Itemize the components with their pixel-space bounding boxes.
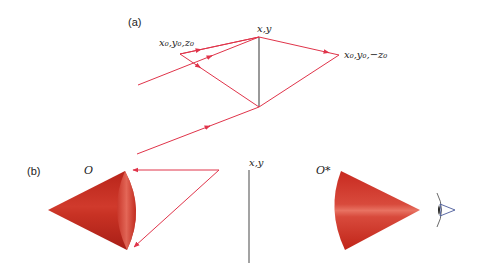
image-label: O* (316, 164, 331, 177)
object-label: O (84, 164, 93, 177)
image-cone (334, 171, 420, 250)
diagram-canvas (0, 0, 479, 276)
panel-b-label: (b) (27, 165, 40, 177)
panel-a-rays (137, 37, 339, 154)
panel-a-label: (a) (128, 16, 141, 28)
image-point-label: x₀,y₀,−z₀ (344, 49, 387, 60)
hologram-diagram: (a) x₀,y₀,z₀ x,y x₀,y₀,−z₀ (b) O O* x,y (0, 0, 479, 276)
plane-label-b: x,y (249, 157, 263, 168)
panel-b (48, 170, 455, 263)
plane-label-a: x,y (257, 23, 271, 34)
eye-icon (437, 193, 455, 227)
object-point-label: x₀,y₀,z₀ (159, 37, 194, 48)
object-cone (48, 171, 136, 250)
